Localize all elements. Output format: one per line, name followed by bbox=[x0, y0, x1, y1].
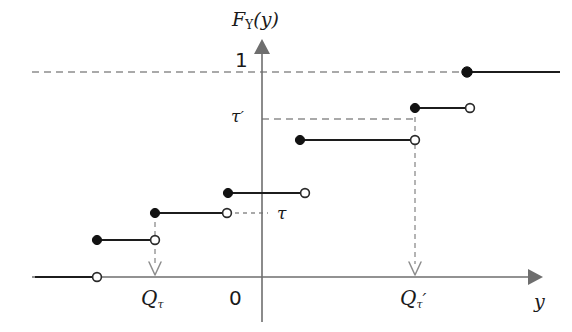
quantile-tau-label: Qτ bbox=[141, 288, 164, 310]
level-tau-prime-mark: ′ bbox=[240, 108, 243, 126]
quantile-tau-subscript: τ bbox=[157, 298, 163, 311]
quantile-tau-prime-base: Q bbox=[400, 286, 416, 310]
level-tau-label: τ bbox=[277, 205, 286, 222]
endpoint-open-3 bbox=[301, 189, 310, 198]
y-axis-label-base: F bbox=[232, 8, 245, 30]
y-axis-label: FY(y) bbox=[232, 10, 279, 31]
endpoint-filled-2 bbox=[150, 208, 159, 217]
endpoint-filled-6 bbox=[462, 67, 472, 77]
x-axis-label: y bbox=[534, 292, 545, 311]
x-axis bbox=[32, 269, 543, 285]
level-tau-prime-symbol: τ bbox=[231, 106, 240, 126]
endpoint-filled-4 bbox=[295, 135, 304, 144]
quantile-tau-base: Q bbox=[141, 286, 157, 310]
y-axis bbox=[254, 39, 270, 322]
quantile-tau-prime-mark: ′ bbox=[423, 289, 427, 309]
endpoint-filled-1 bbox=[92, 235, 101, 244]
endpoint-open-4 bbox=[411, 136, 420, 145]
endpoint-open-1 bbox=[151, 236, 160, 245]
chart-canvas bbox=[0, 0, 572, 332]
quantile-drop-q-tau-prime bbox=[409, 108, 421, 275]
endpoint-open-0 bbox=[93, 273, 102, 282]
endpoint-open-2 bbox=[223, 209, 232, 218]
endpoint-filled-5 bbox=[410, 103, 419, 112]
level-one-label: 1 bbox=[235, 50, 248, 70]
y-axis-label-arg: (y) bbox=[253, 8, 279, 30]
origin-label: 0 bbox=[229, 288, 242, 308]
endpoint-filled-3 bbox=[223, 188, 232, 197]
cdf-step-function-figure: FY(y) 1 τ′ τ 0 Qτ Qτ′ y bbox=[0, 0, 572, 332]
endpoint-open-5 bbox=[466, 104, 475, 113]
level-tau-prime-label: τ′ bbox=[231, 108, 244, 125]
quantile-tau-prime-label: Qτ′ bbox=[400, 288, 426, 310]
